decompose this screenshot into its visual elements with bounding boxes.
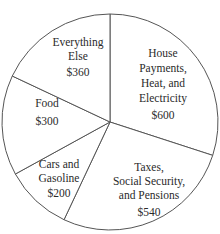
- slice-label-everything-else: Everything: [52, 36, 103, 49]
- slice-label-taxes: and Pensions: [119, 189, 180, 201]
- slice-value-house: $600: [152, 109, 175, 121]
- pie-chart: House Payments, Heat, and Electricity $6…: [0, 0, 220, 234]
- slice-label-house: Payments,: [139, 62, 187, 75]
- slice-value-cars: $200: [48, 187, 71, 199]
- slice-label-cars: Cars and: [39, 158, 80, 170]
- slice-value-taxes: $540: [138, 206, 161, 218]
- slice-label-house: House: [148, 47, 177, 59]
- slice-value-food: $300: [36, 115, 59, 127]
- slice-value-everything-else: $360: [67, 66, 90, 78]
- slice-label-taxes: Taxes,: [134, 161, 164, 174]
- slice-label-house: Heat, and: [141, 77, 185, 90]
- slice-label-house: Electricity: [139, 92, 187, 105]
- slice-label-everything-else: Else: [68, 50, 88, 62]
- slice-label-cars: Gasoline: [39, 172, 80, 184]
- slice-label-food: Food: [35, 97, 59, 109]
- slice-label-taxes: Social Security,: [113, 175, 185, 188]
